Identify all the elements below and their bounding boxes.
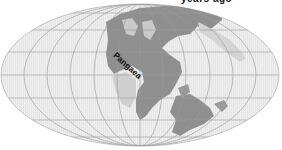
world-map: years ago Pangaea	[0, 0, 282, 150]
map-caption-partial: years ago	[181, 0, 232, 4]
